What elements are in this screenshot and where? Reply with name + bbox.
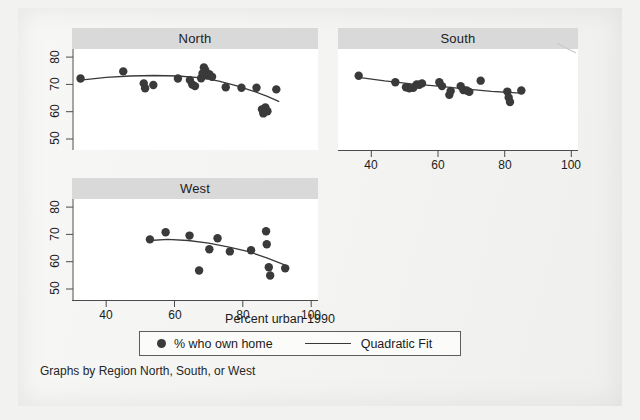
panel-west-title: West bbox=[72, 178, 318, 199]
legend-entry-line: Quadratic Fit bbox=[305, 337, 433, 351]
solid-line-icon bbox=[305, 343, 351, 344]
data-point bbox=[191, 82, 199, 90]
data-point bbox=[185, 231, 193, 239]
data-point bbox=[161, 228, 169, 236]
panel-west-canvas bbox=[72, 199, 318, 300]
filled-circle-icon bbox=[157, 339, 166, 348]
data-point bbox=[141, 84, 149, 92]
data-point bbox=[272, 85, 280, 93]
data-point bbox=[205, 245, 213, 253]
panel-west-plot-area bbox=[72, 199, 318, 300]
panel-south-header: South bbox=[338, 28, 578, 49]
x-axis-title: Percent urban 1990 bbox=[180, 312, 380, 326]
data-point bbox=[195, 266, 203, 274]
figure-root: North 80 70 60 50 South 40 60 80 100 bbox=[0, 0, 640, 420]
panel-south-xtick-100: 100 bbox=[556, 158, 586, 172]
data-point bbox=[263, 107, 271, 115]
data-point bbox=[266, 271, 274, 279]
data-point bbox=[213, 234, 221, 242]
data-point bbox=[76, 74, 84, 82]
panel-south-xtick-40: 40 bbox=[356, 158, 386, 172]
legend-line-label: Quadratic Fit bbox=[361, 337, 433, 351]
data-point bbox=[265, 263, 273, 271]
panel-south-xtick-80: 80 bbox=[490, 158, 520, 172]
figure-caption: Graphs by Region North, South, or West bbox=[40, 364, 255, 378]
panel-north: North bbox=[72, 28, 318, 150]
panel-north-ytick-50: 50 bbox=[48, 121, 62, 155]
panel-south-canvas bbox=[338, 49, 578, 150]
panel-south-plot-area bbox=[338, 49, 578, 150]
legend: % who own home Quadratic Fit bbox=[139, 331, 461, 356]
data-point bbox=[418, 79, 426, 87]
panel-north-canvas bbox=[72, 49, 318, 150]
panel-west: West bbox=[72, 178, 318, 300]
data-point bbox=[146, 235, 154, 243]
data-point bbox=[119, 67, 127, 75]
panel-north-header: North bbox=[72, 28, 318, 49]
data-point bbox=[506, 98, 514, 106]
panel-west-header: West bbox=[72, 178, 318, 199]
data-point bbox=[476, 76, 484, 84]
legend-entry-marker: % who own home bbox=[157, 337, 273, 351]
panel-north-title: North bbox=[72, 28, 318, 49]
panel-north-plot-area bbox=[72, 49, 318, 150]
panel-west-ytick-50: 50 bbox=[48, 271, 62, 305]
panel-south-xtick-60: 60 bbox=[423, 158, 453, 172]
panel-south-title: South bbox=[338, 28, 578, 49]
legend-marker-label: % who own home bbox=[174, 337, 273, 351]
data-point bbox=[354, 72, 362, 80]
data-point bbox=[262, 227, 270, 235]
data-point bbox=[263, 240, 271, 248]
panel-west-xtick-40: 40 bbox=[91, 308, 121, 322]
panel-south: South bbox=[338, 28, 578, 150]
data-point bbox=[149, 81, 157, 89]
